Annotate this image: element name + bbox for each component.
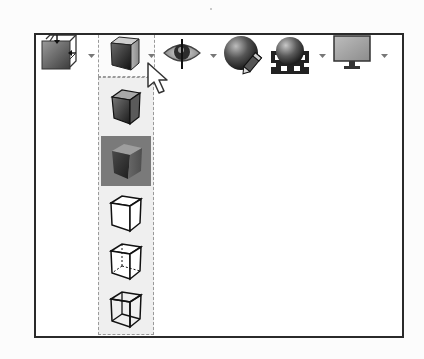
wireframe-cube-icon [108, 288, 144, 330]
hide-show-items-dropdown-arrow[interactable] [210, 53, 217, 59]
chevron-down-icon [210, 53, 217, 59]
view-orientation-cube-icon [40, 35, 80, 73]
chevron-down-icon [88, 53, 95, 59]
eye-icon [162, 35, 202, 73]
hidden-lines-removed-cube-icon [108, 192, 144, 234]
menu-item-shaded-with-edges[interactable] [101, 82, 151, 132]
display-style-dropdown-menu [98, 77, 154, 335]
sphere-checkered-floor-icon [270, 35, 310, 75]
edit-appearance-button[interactable] [222, 35, 264, 75]
hide-show-items-button[interactable] [162, 35, 202, 75]
apply-scene-button[interactable] [270, 35, 310, 75]
view-orientation-button[interactable] [40, 35, 80, 75]
screenshot-stage [0, 0, 424, 359]
graphics-area-frame [34, 33, 404, 338]
menu-item-shaded[interactable] [101, 136, 151, 186]
shaded-with-edges-cube-icon [107, 35, 143, 73]
shaded-cube-icon [106, 139, 146, 183]
menu-item-hidden-lines-removed[interactable] [101, 188, 151, 238]
monitor-icon [333, 35, 373, 73]
heads-up-view-toolbar [36, 35, 402, 75]
chevron-down-icon [319, 53, 326, 59]
apply-scene-dropdown-arrow[interactable] [319, 53, 326, 59]
view-settings-button[interactable] [333, 35, 373, 75]
menu-item-wireframe[interactable] [101, 284, 151, 334]
view-settings-dropdown-arrow[interactable] [381, 53, 388, 59]
chevron-down-icon [148, 53, 155, 59]
hidden-lines-visible-cube-icon [108, 240, 144, 282]
shaded-with-edges-cube-icon [108, 87, 144, 127]
sphere-pencil-icon [222, 35, 264, 75]
menu-item-hidden-lines-visible[interactable] [101, 236, 151, 286]
display-style-button[interactable] [98, 35, 155, 77]
display-style-dropdown-arrow[interactable] [148, 53, 155, 59]
chevron-down-icon [381, 53, 388, 59]
speck [210, 8, 212, 10]
view-orientation-dropdown-arrow[interactable] [88, 53, 95, 59]
